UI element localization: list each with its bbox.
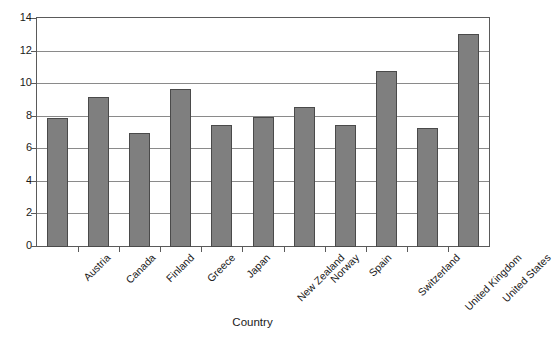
x-tick-label: Austria [81, 252, 112, 283]
x-tick-label: Spain [367, 252, 394, 279]
x-tick-mark [366, 247, 367, 252]
x-tick-mark [78, 247, 79, 252]
x-tick-mark [407, 247, 408, 252]
x-tick-label: Japan [244, 252, 272, 280]
x-tick-label: Canada [123, 252, 157, 286]
x-axis-title: Country [0, 316, 505, 329]
x-tick-label: Greece [205, 252, 237, 284]
x-tick-mark [201, 247, 202, 252]
x-tick-label: Finland [164, 252, 196, 284]
x-tick-label: Switzerland [416, 252, 462, 298]
x-tick-mark [448, 247, 449, 252]
x-tick-mark [325, 247, 326, 252]
x-tick-mark [242, 247, 243, 252]
x-tick-mark [119, 247, 120, 252]
x-tick-mark [284, 247, 285, 252]
x-tick-mark [160, 247, 161, 252]
